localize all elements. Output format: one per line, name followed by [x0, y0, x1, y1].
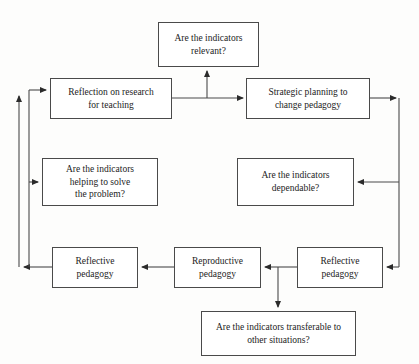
node-label: Are the indicators helping to solve the …	[47, 163, 153, 201]
node-label: Reproductive pedagogy	[179, 255, 256, 281]
node-reproductive-pedagogy[interactable]: Reproductive pedagogy	[174, 247, 261, 288]
node-label: Strategic planning to change pedagogy	[251, 86, 365, 112]
node-label: Are the indicators relevant?	[163, 32, 254, 58]
node-label: Are the indicators transferable to other…	[206, 321, 351, 347]
flowchart-diagram: Are the indicators relevant? Reflection …	[0, 0, 419, 364]
node-reflective-pedagogy-left[interactable]: Reflective pedagogy	[52, 247, 138, 288]
node-label: Reflective pedagogy	[57, 255, 133, 281]
node-indicators-dependable[interactable]: Are the indicators dependable?	[237, 158, 354, 206]
node-label: Reflective pedagogy	[302, 255, 378, 281]
node-indicators-transferable[interactable]: Are the indicators transferable to other…	[201, 311, 356, 356]
node-label: Are the indicators dependable?	[242, 169, 349, 195]
node-reflective-pedagogy-right[interactable]: Reflective pedagogy	[297, 247, 383, 288]
node-label: Reflection on research for teaching	[55, 86, 167, 112]
node-reflection-on-research[interactable]: Reflection on research for teaching	[50, 78, 172, 119]
node-indicators-helping[interactable]: Are the indicators helping to solve the …	[42, 158, 158, 206]
node-strategic-planning[interactable]: Strategic planning to change pedagogy	[246, 78, 370, 119]
node-indicators-relevant[interactable]: Are the indicators relevant?	[158, 22, 259, 67]
